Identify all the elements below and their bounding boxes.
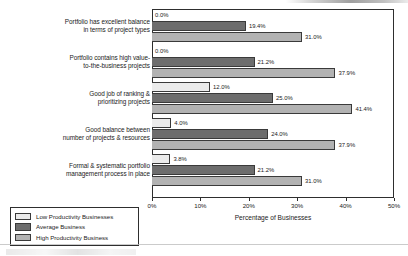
bar-group: Good balance betweennumber of projects &… bbox=[0, 118, 408, 154]
bar-avg[interactable] bbox=[152, 165, 255, 175]
bar-avg[interactable] bbox=[152, 129, 268, 139]
bar-value-label: 3.8% bbox=[173, 155, 186, 164]
category-label-line: number of projects & resources bbox=[18, 134, 150, 142]
bar-value-label: 0.0% bbox=[155, 11, 168, 20]
bar-value-label: 0.0% bbox=[155, 47, 168, 56]
bar-row: 24.0% bbox=[152, 129, 394, 139]
bar-row: 41.4% bbox=[152, 104, 394, 114]
category-label-line: Portfolio has excellent balance bbox=[18, 18, 150, 26]
bar-value-label: 25.0% bbox=[276, 94, 293, 103]
bar-value-label: 4.0% bbox=[174, 119, 187, 128]
bar-row: 31.0% bbox=[152, 32, 394, 42]
bar-avg[interactable] bbox=[152, 93, 273, 103]
bar-row: 0.0% bbox=[152, 46, 394, 56]
x-axis-tick-label: 30% bbox=[291, 202, 303, 209]
category-label-line: Formal & systematic portfolio bbox=[18, 162, 150, 170]
legend-label: Average Business bbox=[36, 223, 85, 230]
category-label-line: prioritizing projects bbox=[18, 98, 150, 106]
legend-item[interactable]: High Productivity Business bbox=[15, 232, 134, 243]
bar-row: 25.0% bbox=[152, 93, 394, 103]
bar-low[interactable] bbox=[152, 154, 170, 164]
legend-item[interactable]: Low Productivity Businesses bbox=[15, 211, 134, 222]
x-axis-tick-label: 10% bbox=[194, 202, 206, 209]
bar-value-label: 21.2% bbox=[258, 58, 275, 67]
x-axis-tick bbox=[152, 198, 153, 201]
bar-row: 37.9% bbox=[152, 68, 394, 78]
category-label-line: to-the-business projects bbox=[18, 62, 150, 70]
chart-legend: Low Productivity BusinessesAverage Busin… bbox=[10, 207, 139, 246]
bar-stack: 3.8%21.2%31.0% bbox=[152, 154, 394, 187]
legend-label: High Productivity Business bbox=[36, 234, 108, 241]
bar-row: 31.0% bbox=[152, 176, 394, 186]
x-axis-tick-label: 50% bbox=[388, 202, 400, 209]
bar-stack: 0.0%19.4%31.0% bbox=[152, 10, 394, 43]
bar-value-label: 41.4% bbox=[355, 105, 372, 114]
bar-group: Good job of ranking &prioritizing projec… bbox=[0, 82, 408, 118]
legend-swatch-high bbox=[15, 234, 31, 242]
bar-value-label: 21.2% bbox=[258, 166, 275, 175]
x-axis-tick bbox=[297, 198, 298, 201]
bar-group: Formal & systematic portfoliomanagement … bbox=[0, 154, 408, 190]
bar-high[interactable] bbox=[152, 68, 335, 78]
category-label: Formal & systematic portfoliomanagement … bbox=[18, 162, 150, 178]
bar-row: 4.0% bbox=[152, 118, 394, 128]
bar-high[interactable] bbox=[152, 32, 302, 42]
bar-value-label: 31.0% bbox=[305, 177, 322, 186]
legend-label: Low Productivity Businesses bbox=[36, 213, 113, 220]
bar-row: 12.0% bbox=[152, 82, 394, 92]
category-label: Portfolio has excellent balancein terms … bbox=[18, 18, 150, 34]
x-axis-tick bbox=[200, 198, 201, 201]
scan-artifact-footer-smudge bbox=[6, 249, 136, 255]
x-axis-tick-label: 0% bbox=[148, 202, 157, 209]
legend-swatch-avg bbox=[15, 223, 31, 231]
bar-value-label: 24.0% bbox=[271, 130, 288, 139]
bar-avg[interactable] bbox=[152, 57, 255, 67]
bar-value-label: 31.0% bbox=[305, 33, 322, 42]
bar-row: 3.8% bbox=[152, 154, 394, 164]
bar-row: 0.0% bbox=[152, 10, 394, 20]
bar-group: Portfolio has excellent balancein terms … bbox=[0, 10, 408, 46]
bar-value-label: 37.9% bbox=[338, 69, 355, 78]
bar-high[interactable] bbox=[152, 176, 302, 186]
bar-value-label: 19.4% bbox=[249, 22, 266, 31]
bar-value-label: 12.0% bbox=[213, 83, 230, 92]
bar-group: Portfolio contains high value-to-the-bus… bbox=[0, 46, 408, 82]
bar-row: 19.4% bbox=[152, 21, 394, 31]
x-axis-tick-label: 40% bbox=[339, 202, 351, 209]
bar-high[interactable] bbox=[152, 140, 335, 150]
bar-low[interactable] bbox=[152, 82, 210, 92]
bar-stack: 4.0%24.0%37.9% bbox=[152, 118, 394, 151]
bar-stack: 12.0%25.0%41.4% bbox=[152, 82, 394, 115]
category-label-line: Good balance between bbox=[18, 126, 150, 134]
category-label: Good balance betweennumber of projects &… bbox=[18, 126, 150, 142]
category-label: Good job of ranking &prioritizing projec… bbox=[18, 90, 150, 106]
chart-page: Portfolio has excellent balancein terms … bbox=[0, 0, 408, 256]
x-axis-tick bbox=[249, 198, 250, 201]
category-label-line: Portfolio contains high value- bbox=[18, 54, 150, 62]
category-label: Portfolio contains high value-to-the-bus… bbox=[18, 54, 150, 70]
category-label-line: management process in place bbox=[18, 170, 150, 178]
bar-row: 21.2% bbox=[152, 165, 394, 175]
x-axis-title: Percentage of Businesses bbox=[152, 214, 394, 221]
legend-swatch-low bbox=[15, 213, 31, 221]
x-axis-tick bbox=[394, 198, 395, 201]
bar-avg[interactable] bbox=[152, 21, 246, 31]
category-label-line: Good job of ranking & bbox=[18, 90, 150, 98]
scan-artifact-rule bbox=[0, 244, 408, 245]
bar-row: 37.9% bbox=[152, 140, 394, 150]
category-label-line: in terms of project types bbox=[18, 26, 150, 34]
legend-item[interactable]: Average Business bbox=[15, 222, 134, 233]
scan-artifact-top bbox=[0, 0, 408, 3]
bar-stack: 0.0%21.2%37.9% bbox=[152, 46, 394, 79]
bar-low[interactable] bbox=[152, 118, 171, 128]
bar-row: 21.2% bbox=[152, 57, 394, 67]
x-axis-tick-label: 20% bbox=[243, 202, 255, 209]
x-axis: 0%10%20%30%40%50% bbox=[152, 198, 394, 199]
x-axis-tick bbox=[346, 198, 347, 201]
bar-value-label: 37.9% bbox=[338, 141, 355, 150]
bar-high[interactable] bbox=[152, 104, 352, 114]
